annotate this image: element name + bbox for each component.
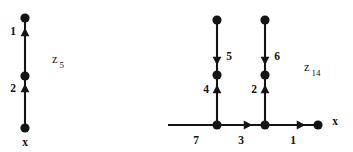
graph-z14-root-label: x bbox=[332, 115, 338, 127]
z14-edge-3-weight-label: 3 bbox=[238, 134, 244, 146]
z14-node-right-base bbox=[260, 120, 269, 129]
graph-z14-caption-subscript: 14 bbox=[312, 68, 322, 78]
graph-z5-caption-subscript: 5 bbox=[60, 60, 65, 70]
figure-background bbox=[0, 0, 353, 152]
z14-edge-5-weight-label: 5 bbox=[226, 50, 232, 62]
z14-node-left-top bbox=[212, 15, 221, 24]
z5-node-root bbox=[20, 123, 29, 132]
z14-edge-1-weight-label: 1 bbox=[290, 134, 296, 146]
graph-z5-caption: z bbox=[52, 52, 58, 66]
z14-node-left-base bbox=[212, 120, 221, 129]
z14-node-right-top bbox=[260, 15, 269, 24]
graph-figure-svg: 12xz57315462xz14 bbox=[0, 0, 353, 152]
graph-z5-root-label: x bbox=[22, 136, 28, 148]
figure-canvas: 12xz57315462xz14 bbox=[0, 0, 353, 152]
z14-edge-6-weight-label: 6 bbox=[274, 50, 280, 62]
z5-edge-1-weight-label: 1 bbox=[10, 25, 16, 37]
z14-edge-4-weight-label: 4 bbox=[203, 83, 209, 95]
graph-z14-caption: z bbox=[304, 60, 310, 74]
z14-node-right-middle bbox=[260, 70, 269, 79]
z5-node-top bbox=[20, 13, 29, 22]
z14-node-root bbox=[313, 120, 322, 129]
z14-edge-2-weight-label: 2 bbox=[251, 83, 257, 95]
z14-edge-7-weight-label: 7 bbox=[193, 134, 199, 146]
z5-edge-2-weight-label: 2 bbox=[10, 82, 16, 94]
z14-node-left-middle bbox=[212, 70, 221, 79]
z5-node-middle bbox=[20, 71, 29, 80]
